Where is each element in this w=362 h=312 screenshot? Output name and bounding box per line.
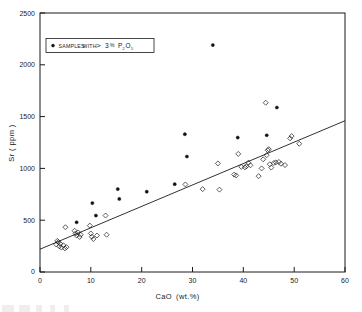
legend-compound-sub-5: 5 [131,47,133,51]
legend-label-samples: SAMPLES [59,43,86,49]
data-point-filled [145,190,148,193]
data-point-filled [185,155,188,158]
data-point-filled [173,183,176,186]
data-point-open [256,174,261,179]
legend-compound-sub-2: 2 [123,47,125,51]
legend-ge-symbol-icon: > [96,41,101,50]
regression-line [40,121,345,249]
page-footer-artifact [2,305,88,312]
y-tick-label-1500: 1500 [19,113,35,120]
x-tick-label-20: 20 [138,277,146,284]
data-point-open [297,141,302,146]
y-tick-label-500: 500 [23,217,35,224]
y-axis: 0 500 1000 1500 2000 2500 Sr ( ppm ) [7,10,45,276]
x-tick-label-60: 60 [341,277,349,284]
x-axis-title-main: CaO [155,292,172,301]
x-tick-label-0: 0 [38,277,42,284]
series-open-diamonds [54,100,302,251]
data-point-filled [91,202,94,205]
data-point-open [263,100,268,105]
scatter-chart: 0 500 1000 1500 2000 2500 Sr ( ppm ) 0 1… [0,0,362,312]
data-point-filled [265,134,268,137]
data-point-open [104,232,109,237]
data-point-filled [211,44,214,47]
legend-percent-icon: % [110,42,115,48]
data-point-open [236,151,241,156]
x-tick-label-50: 50 [290,277,298,284]
y-tick-label-0: 0 [31,268,35,275]
legend-marker-filled-circle-icon [52,44,55,47]
data-point-open [94,233,99,238]
x-tick-label-10: 10 [87,277,95,284]
chart-page: 0 500 1000 1500 2000 2500 Sr ( ppm ) 0 1… [0,0,362,312]
x-tick-label-40: 40 [239,277,247,284]
x-tick-label-30: 30 [189,277,197,284]
y-axis-title: Sr ( ppm ) [7,124,16,161]
data-point-filled [183,133,186,136]
data-point-filled [118,197,121,200]
data-point-open [215,161,220,166]
y-tick-label-2500: 2500 [19,10,35,17]
data-point-filled [236,136,239,139]
data-point-filled [75,221,78,224]
data-point-open [259,166,264,171]
data-point-open [103,213,108,218]
data-point-filled [275,106,278,109]
data-point-open [72,228,77,233]
data-point-filled [94,214,97,217]
data-point-filled [116,188,119,191]
legend-label-with: WITH [83,43,97,49]
x-axis-title-unit: (wt.%) [176,292,200,301]
data-point-open [269,165,274,170]
data-point-open [217,187,222,192]
data-point-open [183,182,188,187]
legend[interactable]: SAMPLES WITH > 3 % P 2 O 5 [46,39,154,53]
data-point-open [200,187,205,192]
y-tick-label-1000: 1000 [19,165,35,172]
y-tick-label-2000: 2000 [19,61,35,68]
data-point-open [261,157,266,162]
series-filled-circles [75,44,278,224]
legend-value: 3 [105,42,109,49]
data-point-open [63,225,68,230]
